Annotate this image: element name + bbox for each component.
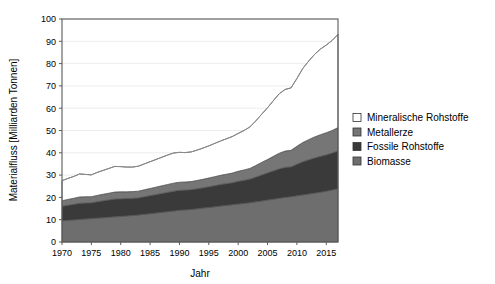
x-tick-label: 1990	[169, 248, 189, 258]
x-tick-label: 2010	[287, 248, 307, 258]
y-tick-label: 0	[51, 237, 56, 247]
y-tick-label: 100	[41, 14, 56, 24]
y-tick-label: 20	[46, 193, 56, 203]
area-series-group	[62, 34, 338, 242]
x-tick-label: 2000	[228, 248, 248, 258]
x-axis-title: Jahr	[190, 268, 210, 279]
y-tick-label: 30	[46, 170, 56, 180]
legend-label: Biomasse	[367, 156, 411, 167]
x-tick-label: 1970	[52, 248, 72, 258]
legend-swatch	[353, 157, 361, 165]
y-tick-label: 10	[46, 215, 56, 225]
y-tick-label: 60	[46, 104, 56, 114]
legend-swatch	[353, 143, 361, 151]
legend-label: Fossile Rohstoffe	[367, 141, 445, 152]
x-tick-label: 2015	[316, 248, 336, 258]
y-tick-label: 70	[46, 81, 56, 91]
x-tick-label: 1995	[199, 248, 219, 258]
legend-swatch	[353, 114, 361, 122]
y-tick-label: 50	[46, 126, 56, 136]
x-tick-label: 1985	[140, 248, 160, 258]
legend-label: Metallerze	[367, 127, 414, 138]
legend-swatch	[353, 128, 361, 136]
x-tick-label: 1980	[111, 248, 131, 258]
x-tick-label: 1975	[81, 248, 101, 258]
y-axis-title: Materialfluss [Milliarden Tonnen]	[8, 58, 19, 201]
legend-label: Mineralische Rohstoffe	[367, 112, 469, 123]
stacked-area-chart: 0102030405060708090100 19701975198019851…	[0, 0, 495, 284]
x-tick-label: 2005	[258, 248, 278, 258]
chart-legend: Mineralische RohstoffeMetallerzeFossile …	[353, 112, 469, 167]
y-tick-label: 90	[46, 37, 56, 47]
y-axis-tick-labels: 0102030405060708090100	[41, 14, 62, 247]
y-tick-label: 40	[46, 148, 56, 158]
y-tick-label: 80	[46, 59, 56, 69]
chart-container: 0102030405060708090100 19701975198019851…	[0, 0, 495, 284]
x-axis-tick-labels: 1970197519801985199019952000200520102015	[52, 242, 336, 258]
